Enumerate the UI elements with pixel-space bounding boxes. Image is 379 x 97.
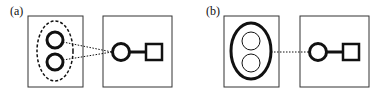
panel-a-inner-circle-2: [47, 54, 63, 70]
panel-a-node-circle: [113, 44, 130, 61]
panel-b-node-circle: [310, 44, 327, 61]
panel-b-inner-circle-2: [242, 54, 260, 72]
panel-a-node-square: [146, 44, 162, 60]
panel-a-dotted-connector-1: [63, 42, 112, 52]
panel-b-group-ellipse: [231, 23, 271, 79]
panel-a-left-box: [28, 16, 83, 87]
panel-a-dotted-connector-2: [63, 52, 112, 60]
panel-b-node-square: [343, 44, 359, 60]
panel-a-inner-circle-1: [47, 32, 63, 48]
panel-b-inner-circle-1: [242, 32, 260, 50]
panel-a-group-ellipse: [37, 21, 73, 81]
diagram-canvas: [0, 0, 379, 97]
